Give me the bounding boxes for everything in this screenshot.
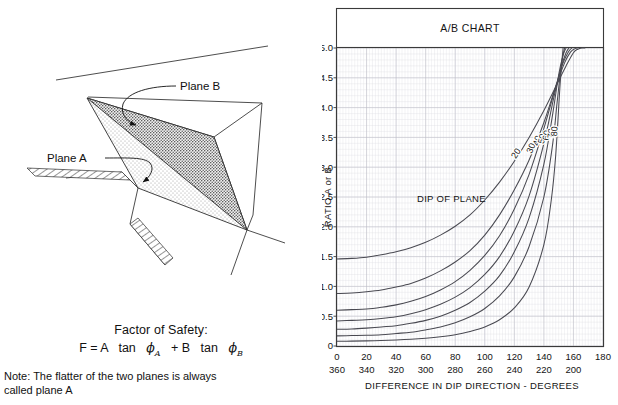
x-tick-primary-20: 20 xyxy=(361,351,372,362)
x-axis-ticks-secondary: 360340320300280260240220200 xyxy=(329,364,581,375)
plane-b-label: Plane B xyxy=(180,80,221,92)
formula-plus-b: + B xyxy=(171,341,190,355)
x-tick-primary-180: 180 xyxy=(595,351,611,362)
x-axis-title: DIFFERENCE IN DIP DIRECTION - DEGREES xyxy=(365,380,579,391)
factor-of-safety-title: Factor of Safety: xyxy=(0,322,322,339)
wedge-diagram-panel: Plane B Plane A Factor of Safety: F = A … xyxy=(0,0,322,405)
formula-sub-b: B xyxy=(237,349,243,358)
formula-sub-a: A xyxy=(155,349,161,358)
factor-of-safety-block: Factor of Safety: F = A tan ϕA + B tan ϕ… xyxy=(0,322,322,363)
y-tick-3.5: 3.5 xyxy=(322,132,333,143)
crest-lines xyxy=(56,46,268,103)
dip-curve-label-80: 80 xyxy=(549,126,560,137)
formula-phi-b: ϕ xyxy=(228,340,237,355)
note-line-2: called plane A xyxy=(4,384,304,398)
x-tick-primary-100: 100 xyxy=(477,351,493,362)
wedge-diagram-svg: Plane B Plane A xyxy=(0,0,322,322)
figure-root: Plane B Plane A Factor of Safety: F = A … xyxy=(0,0,618,405)
x-tick-secondary-260: 260 xyxy=(477,364,493,375)
y-axis-title: RATIO A or B xyxy=(322,167,333,228)
x-tick-primary-80: 80 xyxy=(450,351,461,362)
y-tick-0.5: 0.5 xyxy=(322,311,333,322)
y-tick-1.0: 1.0 xyxy=(322,281,333,292)
x-tick-primary-40: 40 xyxy=(391,351,402,362)
factor-of-safety-formula: F = A tan ϕA + B tan ϕB xyxy=(0,339,322,363)
y-tick-5.0: 5.0 xyxy=(322,42,333,53)
note-line-1: Note: The flatter of the two planes is a… xyxy=(4,370,304,384)
x-tick-secondary-200: 200 xyxy=(566,364,582,375)
x-tick-secondary-280: 280 xyxy=(447,364,463,375)
x-tick-secondary-320: 320 xyxy=(388,364,404,375)
y-tick-0: 0 xyxy=(328,340,333,351)
x-tick-primary-0: 0 xyxy=(334,351,339,362)
plane-a-label: Plane A xyxy=(47,152,87,164)
x-tick-primary-60: 60 xyxy=(420,351,431,362)
x-tick-primary-140: 140 xyxy=(536,351,552,362)
y-tick-1.5: 1.5 xyxy=(322,251,333,262)
x-tick-primary-120: 120 xyxy=(506,351,522,362)
note-block: Note: The flatter of the two planes is a… xyxy=(4,370,304,397)
dip-of-plane-annotation: DIP OF PLANE xyxy=(417,193,486,204)
x-tick-primary-160: 160 xyxy=(566,351,582,362)
formula-tan-a: tan xyxy=(118,341,135,355)
y-tick-4.0: 4.0 xyxy=(322,102,333,113)
formula-tan-b: tan xyxy=(201,341,218,355)
x-axis-ticks-primary: 020406080100120140160180 xyxy=(334,351,611,362)
x-tick-secondary-340: 340 xyxy=(359,364,375,375)
x-tick-secondary-240: 240 xyxy=(506,364,522,375)
x-tick-secondary-360: 360 xyxy=(329,364,345,375)
ab-chart-panel: A/B CHART 2020303040405050606070708080 D… xyxy=(322,0,618,405)
ab-chart-svg: A/B CHART 2020303040405050606070708080 D… xyxy=(322,0,618,405)
formula-prefix: F = A xyxy=(79,341,108,355)
x-tick-secondary-300: 300 xyxy=(418,364,434,375)
y-tick-4.5: 4.5 xyxy=(322,72,333,83)
chart-title: A/B CHART xyxy=(440,22,500,34)
plane-b-face xyxy=(87,98,247,230)
formula-phi-a: ϕ xyxy=(146,340,155,355)
x-tick-secondary-220: 220 xyxy=(536,364,552,375)
